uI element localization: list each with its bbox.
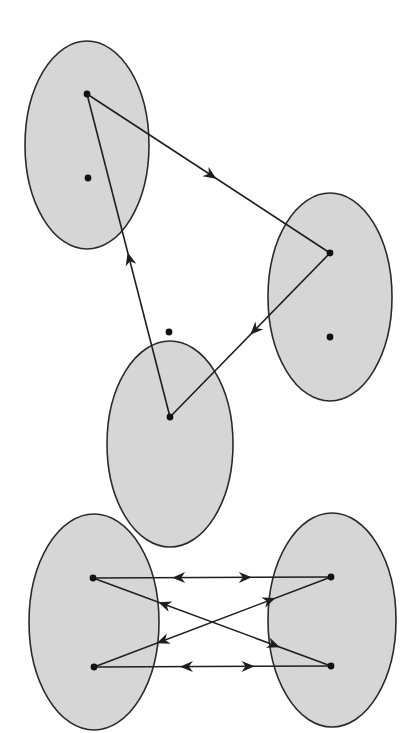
set-R-ellipse [268,513,396,727]
set-A-point-2 [85,175,92,182]
bottom-diagram-edge-2 [94,666,331,667]
bottom-diagram [29,513,396,730]
set-B-point-1 [327,250,334,257]
set-B-point-2 [327,334,334,341]
set-L-point-1 [90,575,97,582]
bottom-diagram-edge-1 [93,577,331,578]
set-L-point-2 [91,664,98,671]
set-C-point-1 [166,329,173,336]
cyclic-mapping-diagram [0,0,415,733]
diagram-canvas [0,0,415,733]
top-diagram [25,41,392,547]
set-R-point-2 [328,663,335,670]
set-A-point-1 [84,91,91,98]
set-R-point-1 [328,574,335,581]
set-L-ellipse [29,514,159,730]
set-A-ellipse [25,41,149,249]
set-C-point-2 [167,414,174,421]
arrowhead-icon [202,167,216,179]
